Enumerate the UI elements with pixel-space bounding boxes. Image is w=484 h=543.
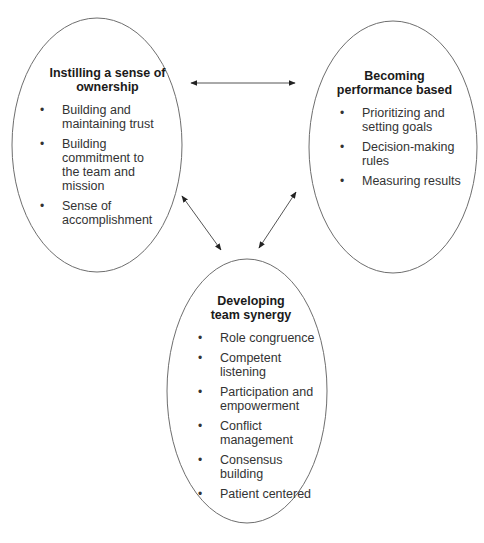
title-line: performance based (332, 83, 457, 97)
list-item: •Role congruence (198, 331, 340, 345)
bullet-icon: • (340, 174, 344, 188)
node-ownership: Instilling a sense of ownership •Buildin… (40, 66, 175, 233)
node-title: Becoming performance based (332, 69, 457, 97)
list-item: •Patient centered (198, 487, 340, 501)
list-item: •Competent listening (198, 351, 300, 379)
list-item: •Conflict management (198, 419, 310, 447)
list-item: •Prioritizing and setting goals (340, 106, 462, 134)
item-text: Conflict management (220, 419, 293, 447)
item-text: Competent listening (220, 351, 281, 379)
item-list: •Prioritizing and setting goals •Decisio… (340, 106, 465, 188)
bullet-icon: • (198, 419, 202, 433)
title-line: ownership (40, 80, 175, 94)
node-title: Developing team synergy (196, 294, 306, 322)
node-title: Instilling a sense of ownership (40, 66, 175, 94)
arrow-ownership-synergy (182, 196, 221, 250)
node-synergy: Developing team synergy •Role congruence… (198, 294, 323, 507)
title-line: Developing (196, 294, 306, 308)
title-line: Becoming (332, 69, 457, 83)
title-line: Instilling a sense of (40, 66, 175, 80)
item-text: Prioritizing and setting goals (362, 106, 445, 134)
item-text: Consensus building (220, 453, 283, 481)
bullet-icon: • (40, 199, 44, 213)
bullet-icon: • (40, 103, 44, 117)
arrow-performance-synergy (259, 192, 296, 248)
item-list: •Building and maintaining trust •Buildin… (40, 103, 175, 227)
bullet-icon: • (198, 331, 202, 345)
title-line: team synergy (196, 308, 306, 322)
item-text: Building commitment to the team and miss… (62, 137, 144, 193)
list-item: •Sense of accomplishment (40, 199, 152, 227)
item-text: Decision-making rules (362, 140, 454, 168)
item-text: Patient centered (220, 487, 311, 501)
bullet-icon: • (198, 385, 202, 399)
bullet-icon: • (340, 106, 344, 120)
node-performance: Becoming performance based •Prioritizing… (340, 69, 465, 194)
list-item: •Building commitment to the team and mis… (40, 137, 162, 193)
bullet-icon: • (198, 453, 202, 467)
item-text: Measuring results (362, 174, 461, 188)
list-item: •Decision-making rules (340, 140, 464, 168)
bullet-icon: • (198, 487, 202, 501)
item-text: Sense of accomplishment (62, 199, 152, 227)
item-text: Role congruence (220, 331, 315, 345)
bullet-icon: • (340, 140, 344, 154)
bullet-icon: • (40, 137, 44, 151)
item-text: Building and maintaining trust (62, 103, 154, 131)
list-item: •Building and maintaining trust (40, 103, 154, 131)
bullet-icon: • (198, 351, 202, 365)
item-list: •Role congruence •Competent listening •P… (198, 331, 323, 501)
list-item: •Measuring results (340, 174, 477, 188)
list-item: •Consensus building (198, 453, 300, 481)
list-item: •Participation and empowerment (198, 385, 325, 413)
item-text: Participation and empowerment (220, 385, 313, 413)
